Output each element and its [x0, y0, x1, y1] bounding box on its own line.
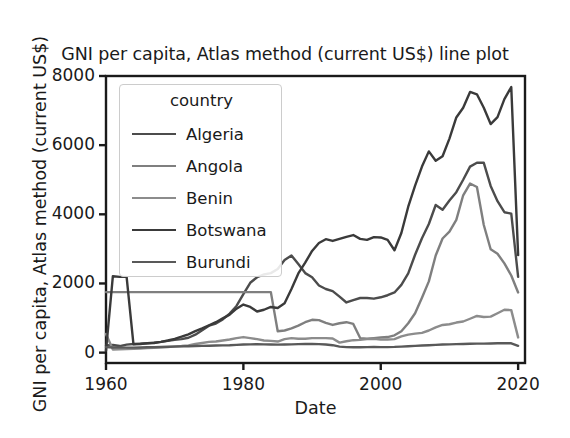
- x-tick-label: 1980: [203, 374, 283, 394]
- legend-title: country: [120, 91, 283, 110]
- x-tick-label: 2000: [341, 374, 421, 394]
- y-tick-label: 4000: [25, 203, 95, 223]
- y-tick-label: 6000: [25, 134, 95, 154]
- legend-item-botswana[interactable]: Botswana: [120, 214, 283, 246]
- legend-entries: AlgeriaAngolaBeninBotswanaBurundi: [120, 118, 283, 278]
- legend-item-algeria[interactable]: Algeria: [120, 118, 283, 150]
- legend-swatch-icon: [132, 261, 176, 263]
- legend-label: Burundi: [186, 253, 251, 272]
- legend-label: Algeria: [186, 125, 244, 144]
- legend-label: Benin: [186, 189, 233, 208]
- legend: country AlgeriaAngolaBeninBotswanaBurund…: [119, 84, 282, 277]
- x-tick-label: 1960: [66, 374, 146, 394]
- legend-swatch-icon: [132, 133, 176, 135]
- y-tick-label: 8000: [25, 65, 95, 85]
- legend-swatch-icon: [132, 165, 176, 167]
- y-tick-label: 0: [25, 342, 95, 362]
- legend-item-burundi[interactable]: Burundi: [120, 246, 283, 278]
- legend-item-angola[interactable]: Angola: [120, 150, 283, 182]
- y-tick-label: 2000: [25, 272, 95, 292]
- legend-item-benin[interactable]: Benin: [120, 182, 283, 214]
- legend-label: Angola: [186, 157, 243, 176]
- chart-title: GNI per capita, Atlas method (current US…: [0, 44, 570, 64]
- x-tick-label: 2020: [478, 374, 558, 394]
- x-axis-label: Date: [106, 398, 525, 418]
- legend-swatch-icon: [132, 229, 176, 231]
- legend-swatch-icon: [132, 197, 176, 199]
- legend-label: Botswana: [186, 221, 267, 240]
